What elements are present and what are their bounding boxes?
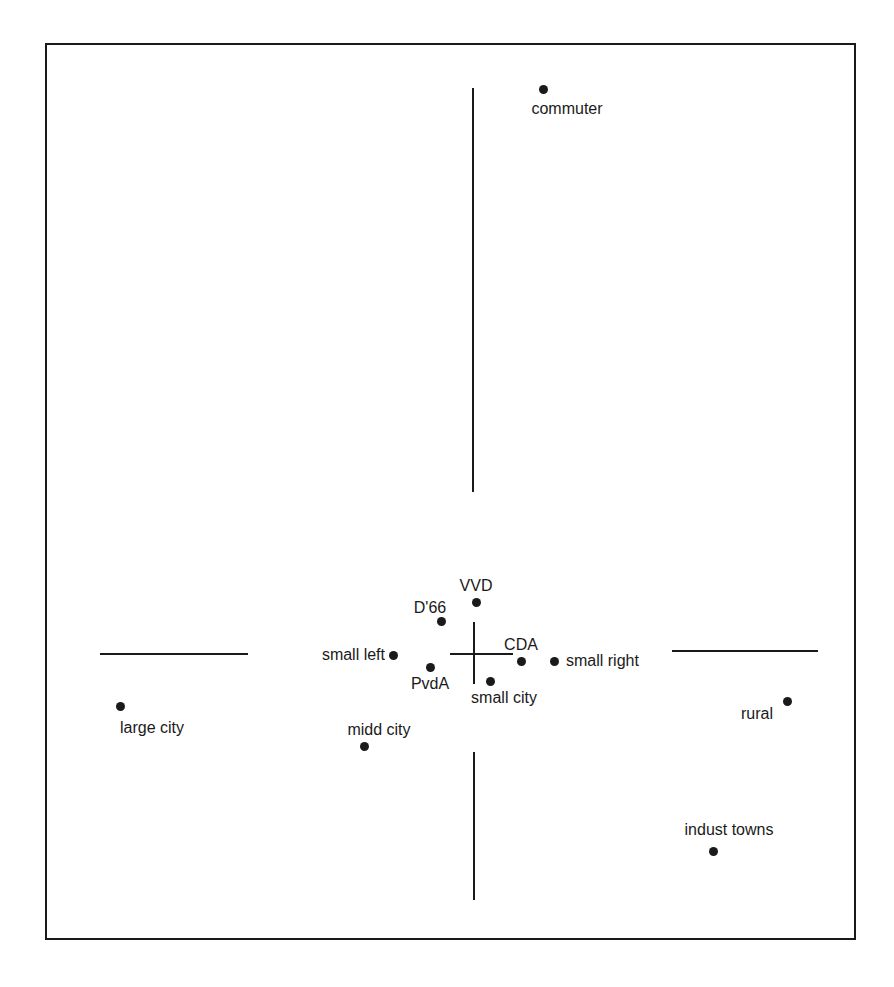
- data-point-label: PvdA: [411, 676, 449, 692]
- data-point-label: large city: [120, 720, 184, 736]
- data-point-marker: [437, 617, 446, 626]
- data-point-marker: [360, 742, 369, 751]
- data-point-label: CDA: [504, 637, 538, 653]
- plot-frame-border: [45, 43, 856, 940]
- data-point-label: indust towns: [685, 822, 774, 838]
- scatter-plot-figure: commuterVVDD'66small leftCDAsmall rightP…: [0, 0, 894, 987]
- data-point-marker: [539, 85, 548, 94]
- data-point-marker: [426, 663, 435, 672]
- data-point-marker: [709, 847, 718, 856]
- data-point-label: small right: [566, 653, 639, 669]
- data-point-marker: [472, 598, 481, 607]
- vertical-axis-upper: [472, 88, 474, 492]
- data-point-label: commuter: [531, 101, 602, 117]
- data-point-label: midd city: [347, 722, 410, 738]
- data-point-label: small left: [322, 647, 385, 663]
- data-point-label: rural: [741, 706, 773, 722]
- data-point-marker: [783, 697, 792, 706]
- vertical-axis-lower: [473, 752, 475, 900]
- origin-cross-horizontal: [450, 653, 513, 655]
- data-point-marker: [517, 657, 526, 666]
- data-point-label: small city: [471, 690, 537, 706]
- horizontal-axis-right: [672, 650, 818, 652]
- data-point-marker: [486, 677, 495, 686]
- data-point-marker: [389, 651, 398, 660]
- horizontal-axis-left: [100, 653, 248, 655]
- data-point-marker: [116, 702, 125, 711]
- data-point-marker: [550, 657, 559, 666]
- data-point-label: D'66: [414, 600, 446, 616]
- data-point-label: VVD: [460, 578, 493, 594]
